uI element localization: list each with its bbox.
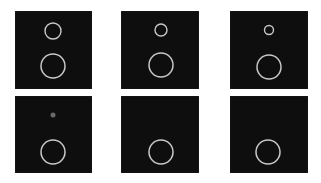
large-ring	[149, 140, 173, 164]
small-ring	[265, 26, 274, 35]
image-panel-6	[230, 96, 308, 173]
panel-graphic	[15, 11, 92, 89]
panel-graphic	[15, 96, 92, 173]
image-panel-2	[121, 11, 199, 89]
panel-graphic	[121, 96, 199, 173]
image-panel-4	[15, 96, 92, 173]
large-ring	[41, 140, 65, 164]
panel-graphic	[121, 11, 199, 89]
image-panel-3	[230, 11, 308, 89]
panel-graphic	[230, 11, 308, 89]
large-ring	[149, 53, 173, 77]
panel-graphic	[230, 96, 308, 173]
image-panel-5	[121, 96, 199, 173]
large-ring	[256, 140, 280, 164]
small-ring	[45, 23, 61, 39]
small-dot	[51, 113, 56, 118]
small-ring	[155, 24, 167, 36]
image-panel-1	[15, 11, 92, 89]
large-ring	[41, 54, 65, 78]
large-ring	[257, 55, 281, 79]
